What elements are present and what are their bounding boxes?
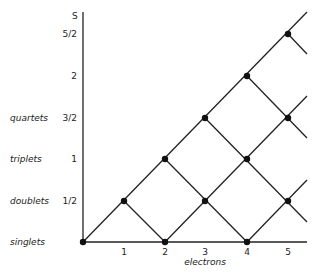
label-singlets: singlets	[10, 237, 45, 247]
label-quartets: quartets	[10, 113, 48, 123]
x-tick-4: 4	[244, 247, 250, 257]
s-axis-label: S	[72, 11, 78, 21]
x-tick-2: 2	[162, 247, 168, 257]
y-tick-1-2: 1/2	[63, 196, 77, 206]
x-tick-1: 1	[121, 247, 127, 257]
branch-lines	[83, 12, 307, 242]
label-doublets: doublets	[10, 196, 49, 206]
y-tick-3-2: 3/2	[63, 113, 77, 123]
x-tick-3: 3	[202, 247, 208, 257]
x-tick-5: 5	[285, 247, 291, 257]
y-tick-1: 1	[71, 154, 77, 164]
x-axis-label: electrons	[184, 257, 226, 267]
branching-diagram: S 5/2 2 3/2 1 1/2 quartets triplets doub…	[0, 0, 317, 272]
y-tick-5-2: 5/2	[63, 29, 77, 39]
label-triplets: triplets	[10, 154, 42, 164]
y-tick-2: 2	[71, 71, 77, 81]
